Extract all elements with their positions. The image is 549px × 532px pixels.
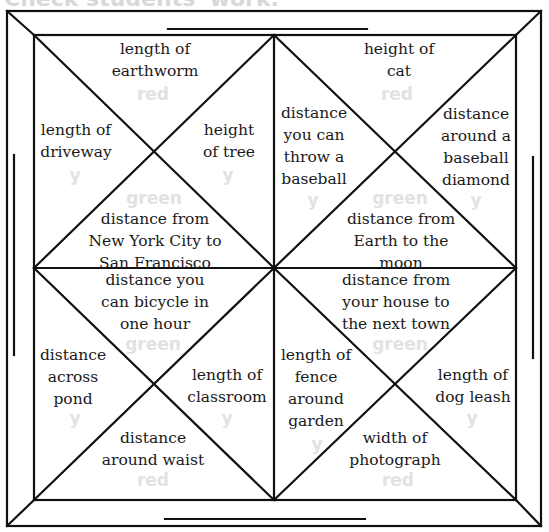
tile-label-top: length of earthworm	[112, 38, 199, 82]
tile-label-right: length of dog leash	[435, 364, 510, 408]
tile-label-right: height of tree	[203, 119, 255, 163]
ghost-label: red	[137, 470, 169, 490]
ghost-label: y	[470, 190, 481, 210]
ghost-label: green	[372, 188, 428, 208]
ghost-label: y	[307, 190, 318, 210]
ghost-label: red	[382, 470, 414, 490]
ghost-label: y	[69, 165, 80, 185]
ghost-label: y	[69, 408, 80, 428]
tile-label-bottom: width of photograph	[349, 427, 440, 471]
tile-label-bottom: distance from New York City to San Franc…	[88, 208, 221, 274]
ghost-label: y	[221, 408, 232, 428]
ghost-label: green	[126, 188, 182, 208]
tile-label-bottom: distance around waist	[102, 427, 204, 471]
ghost-label: red	[137, 84, 169, 104]
puzzle-frame	[0, 0, 549, 532]
tile-label-top: height of cat	[364, 38, 434, 82]
tile-label-right: distance around a baseball diamond	[441, 103, 511, 191]
tile-label-left: length of fence around garden	[281, 344, 351, 432]
tile-label-bottom: distance from Earth to the moon	[347, 208, 455, 274]
tile-label-top: distance you can bicycle in one hour	[101, 269, 209, 335]
ghost-label: y	[311, 434, 322, 454]
tile-label-top: distance from your house to the next tow…	[342, 269, 450, 335]
ghost-label: y	[466, 408, 477, 428]
tile-label-left: distance across pond	[40, 344, 106, 410]
tile-label-left: distance you can throw a baseball	[281, 102, 347, 190]
tile-label-right: length of classroom	[187, 364, 267, 408]
tile-label-left: length of driveway	[40, 119, 111, 163]
ghost-label: y	[222, 165, 233, 185]
ghost-label: red	[381, 84, 413, 104]
ghost-label: green	[372, 334, 428, 354]
ghost-label: green	[125, 334, 181, 354]
